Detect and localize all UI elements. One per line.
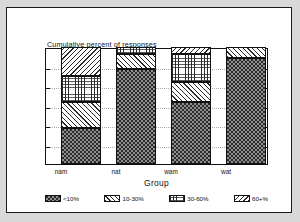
bar-nam-seg-10-30 xyxy=(61,102,101,128)
legend-item-30-60[interactable]: 30-60% xyxy=(169,195,208,202)
legend-label-10-30: 10-30% xyxy=(122,195,143,202)
x-tick-label-wam: wam xyxy=(141,168,201,175)
bar-nam-seg-lt10 xyxy=(61,128,101,164)
legend-item-60plus[interactable]: 60+% xyxy=(234,195,268,202)
legend-item-lt10[interactable]: <10% xyxy=(45,195,79,202)
bar-wam-seg-lt10 xyxy=(171,102,211,164)
bar-wat-seg-lt10 xyxy=(226,58,266,165)
bar-nat-seg-10-30 xyxy=(116,54,156,69)
bar-nam-seg-30-60 xyxy=(61,76,101,102)
chart-figure: Cumulative percent of responses 0 20 40 … xyxy=(7,8,291,212)
legend-label-60plus: 60+% xyxy=(252,195,268,202)
bar-nat-seg-lt10 xyxy=(116,69,156,164)
tick-left-80 xyxy=(46,88,50,89)
legend-label-30-60: 30-60% xyxy=(187,195,208,202)
tick-left-100 xyxy=(46,69,50,70)
bar-wam-seg-60plus xyxy=(171,47,211,54)
legend-swatch-60plus-icon xyxy=(234,195,250,202)
tick-left-40 xyxy=(46,127,50,128)
bar-nat[interactable] xyxy=(116,47,156,164)
legend-item-10-30[interactable]: 10-30% xyxy=(104,195,143,202)
plot-area xyxy=(45,48,268,165)
bar-wam[interactable] xyxy=(171,47,211,164)
screenshot-background: Cumulative percent of responses 0 20 40 … xyxy=(0,0,300,222)
x-tick-label-wat: wat xyxy=(196,168,256,175)
bar-nam-seg-60plus xyxy=(61,47,101,76)
bar-nat-seg-30-60 xyxy=(116,47,156,54)
figure-page: Cumulative percent of responses 0 20 40 … xyxy=(6,7,292,213)
bar-wam-seg-30-60 xyxy=(171,54,211,82)
legend-label-lt10: <10% xyxy=(63,195,79,202)
legend-swatch-10-30-icon xyxy=(104,195,120,202)
x-tick-label-nam: nam xyxy=(31,168,91,175)
bar-wat[interactable] xyxy=(226,47,266,164)
legend-swatch-30-60-icon xyxy=(169,195,185,202)
tick-left-20 xyxy=(46,147,50,148)
chart-legend: <10% 10-30% 30-60% 60+% xyxy=(45,195,268,202)
bar-nam[interactable] xyxy=(61,47,101,164)
tick-left-60 xyxy=(46,108,50,109)
x-axis-label: Group xyxy=(45,178,268,188)
legend-swatch-lt10-icon xyxy=(45,195,61,202)
bar-wat-seg-10-30 xyxy=(226,47,266,58)
x-tick-label-nat: nat xyxy=(86,168,146,175)
bar-wam-seg-10-30 xyxy=(171,82,211,102)
